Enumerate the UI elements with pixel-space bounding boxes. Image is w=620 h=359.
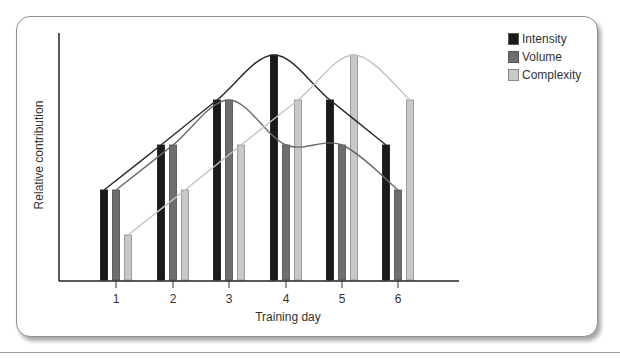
bar-complexity (407, 100, 414, 280)
legend-item-complexity: Complexity (508, 66, 581, 84)
bar-complexity (238, 145, 245, 280)
x-tick-label: 2 (163, 292, 183, 306)
bar-complexity (125, 235, 132, 280)
x-axis-label: Training day (228, 310, 348, 324)
legend-item-intensity: Intensity (508, 30, 581, 48)
legend-label: Volume (522, 50, 562, 64)
x-ticks (116, 281, 398, 288)
legend-label: Intensity (522, 32, 567, 46)
bar-volume (395, 190, 402, 280)
bar-volume (283, 145, 290, 280)
legend-item-volume: Volume (508, 48, 581, 66)
x-tick-label: 4 (276, 292, 296, 306)
bar-complexity (351, 55, 358, 280)
legend-swatch-complexity (508, 69, 519, 81)
y-axis-label: Relative contribution (32, 90, 46, 220)
bar-group (101, 55, 414, 280)
bar-volume (170, 145, 177, 280)
x-tick-label: 1 (106, 292, 126, 306)
bar-intensity (383, 145, 390, 280)
x-tick-label: 6 (388, 292, 408, 306)
trend-curves (104, 55, 410, 235)
legend-swatch-volume (508, 51, 519, 63)
legend-swatch-intensity (508, 33, 519, 45)
bar-intensity (158, 145, 165, 280)
bar-complexity (182, 190, 189, 280)
bar-intensity (101, 190, 108, 280)
bar-intensity (271, 55, 278, 280)
bar-complexity (295, 100, 302, 280)
bar-volume (226, 100, 233, 280)
bar-intensity (214, 100, 221, 280)
bar-volume (339, 145, 346, 280)
bar-intensity (327, 100, 334, 280)
x-tick-label: 5 (332, 292, 352, 306)
x-tick-label: 3 (219, 292, 239, 306)
legend: Intensity Volume Complexity (508, 30, 581, 84)
legend-label: Complexity (522, 68, 581, 82)
bar-volume (113, 190, 120, 280)
